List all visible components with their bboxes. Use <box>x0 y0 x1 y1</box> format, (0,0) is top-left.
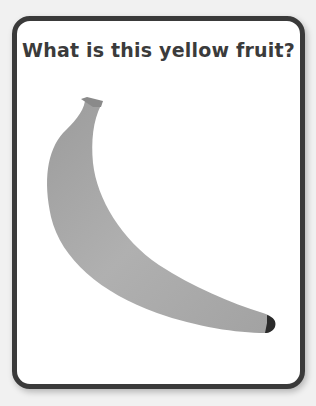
banana-body <box>47 101 274 333</box>
banana-icon <box>17 21 310 394</box>
flashcard: What is this yellow fruit? <box>12 16 305 389</box>
